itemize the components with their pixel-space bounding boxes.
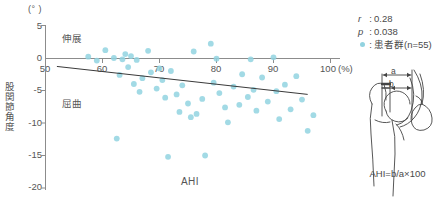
legend: r : 0.28 p : 0.038 : 患者群(n=55) xyxy=(358,12,432,51)
data-point xyxy=(111,55,117,61)
data-point xyxy=(276,116,282,122)
data-point xyxy=(162,95,168,101)
data-point xyxy=(137,89,143,95)
data-point xyxy=(134,57,140,63)
data-point xyxy=(259,75,265,81)
data-point xyxy=(202,153,208,159)
data-point xyxy=(128,53,134,59)
data-point xyxy=(94,58,100,64)
femoral-head xyxy=(384,91,410,111)
data-point xyxy=(194,111,200,117)
data-point xyxy=(188,114,194,120)
data-point xyxy=(185,101,191,107)
regression-trend-line xyxy=(57,66,308,94)
data-point xyxy=(254,108,260,114)
scatter-chart-panel: (° ) 5 0 -5 -10 -15 -20 50 60 70 80 90 1… xyxy=(0,0,352,203)
data-point xyxy=(216,90,222,96)
data-point xyxy=(236,102,242,108)
data-point xyxy=(120,56,126,62)
data-point xyxy=(165,154,171,160)
data-point xyxy=(245,94,251,100)
data-point xyxy=(265,99,271,105)
data-point xyxy=(311,112,317,118)
femoral-neck xyxy=(384,84,386,100)
dimension-arrow-b xyxy=(391,86,411,90)
legend-row-group: : 患者群(n=55) xyxy=(358,38,432,51)
legend-group-label: 患者群(n=55) xyxy=(374,38,432,51)
data-point xyxy=(271,54,277,60)
data-point xyxy=(179,82,185,88)
data-point xyxy=(145,48,151,54)
data-point xyxy=(191,49,197,55)
legend-colon-r: : xyxy=(367,12,374,25)
hip-joint-anatomy-diagram xyxy=(352,64,443,203)
data-point xyxy=(85,54,91,60)
plot-canvas xyxy=(0,0,352,203)
data-point xyxy=(214,56,220,62)
legend-row-p: p : 0.038 xyxy=(358,25,432,38)
legend-r-symbol: r xyxy=(358,12,367,25)
data-point xyxy=(305,128,311,134)
legend-colon-p: : xyxy=(367,25,374,38)
data-point xyxy=(177,109,183,115)
data-point xyxy=(239,71,245,77)
legend-p-symbol: p xyxy=(358,25,367,38)
data-point xyxy=(288,106,294,112)
data-point xyxy=(157,66,163,72)
data-point xyxy=(102,47,108,53)
data-point xyxy=(154,86,160,92)
ahi-formula: AHI=b/a×100 xyxy=(352,168,443,179)
figure-root: (° ) 5 0 -5 -10 -15 -20 50 60 70 80 90 1… xyxy=(0,0,443,203)
data-point xyxy=(114,136,120,142)
data-point xyxy=(174,92,180,98)
legend-row-r: r : 0.28 xyxy=(358,12,432,25)
data-point xyxy=(211,80,217,86)
data-point xyxy=(299,97,305,103)
legend-dot-icon xyxy=(360,42,365,47)
data-point xyxy=(225,119,231,125)
legend-r-value: 0.28 xyxy=(374,12,393,25)
data-point xyxy=(168,68,174,74)
dimension-arrow-a xyxy=(383,73,411,77)
data-point xyxy=(222,105,228,111)
data-point xyxy=(293,73,299,79)
y-axis-ticks xyxy=(41,26,46,189)
data-point xyxy=(282,82,288,88)
data-point xyxy=(131,81,137,87)
data-point xyxy=(125,64,131,70)
data-point xyxy=(122,51,128,57)
data-point xyxy=(208,41,214,47)
data-point xyxy=(248,56,254,62)
data-point xyxy=(148,69,154,75)
legend-p-value: 0.038 xyxy=(374,25,398,38)
legend-colon-group: : xyxy=(367,38,374,51)
data-point xyxy=(199,96,205,102)
femur-shaft-medial xyxy=(392,120,395,196)
